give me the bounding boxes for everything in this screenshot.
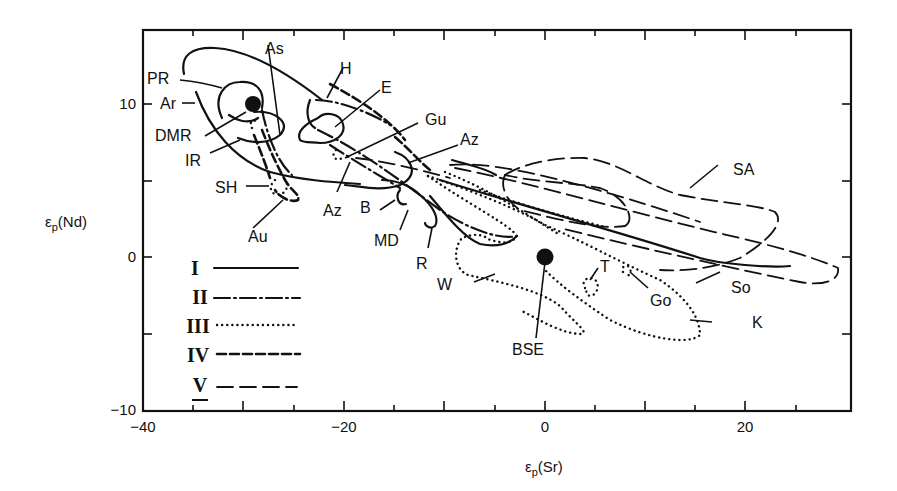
label-W: W <box>437 276 453 293</box>
x-tick-label: −20 <box>331 418 356 435</box>
label-Au: Au <box>248 228 268 245</box>
label-DMR: DMR <box>155 127 191 144</box>
label-Gu: Gu <box>425 111 446 128</box>
x-tick-label: −40 <box>130 418 155 435</box>
y-tick-label: 0 <box>128 248 136 265</box>
label-BSE: BSE <box>512 341 544 358</box>
type-III-contours <box>251 121 700 340</box>
legend: I II III IV V <box>186 257 300 400</box>
y-tick-label: 10 <box>119 95 136 112</box>
label-Az-2: Az <box>323 202 342 219</box>
y-axis-title: εp(Nd) <box>45 213 87 233</box>
label-K: K <box>752 314 763 331</box>
label-Go: Go <box>650 292 671 309</box>
label-R: R <box>416 255 428 272</box>
label-So: So <box>731 279 751 296</box>
label-PR: PR <box>147 70 169 87</box>
pr-ar-point <box>245 96 261 112</box>
label-E: E <box>381 79 392 96</box>
label-Az-1: Az <box>460 131 479 148</box>
x-tick-label: 0 <box>541 418 549 435</box>
label-leaders <box>180 45 720 338</box>
label-As: As <box>265 40 284 57</box>
label-B: B <box>360 199 371 216</box>
x-tick-label: 20 <box>737 418 754 435</box>
label-MD: MD <box>374 232 399 249</box>
legend-key-V: V <box>193 374 208 396</box>
label-H: H <box>340 60 352 77</box>
legend-key-IV: IV <box>187 344 210 366</box>
label-T: T <box>600 258 610 275</box>
label-SH: SH <box>215 179 237 196</box>
label-IR: IR <box>185 152 201 169</box>
label-Ar: Ar <box>160 95 177 112</box>
legend-key-III: III <box>186 315 210 337</box>
legend-key-I: I <box>191 257 199 279</box>
y-tick-label: −10 <box>111 401 136 418</box>
isotope-plot: −40 −20 0 20 10 0 −10 εp(Sr) εp(Nd) <box>0 0 897 491</box>
legend-key-II: II <box>192 286 208 308</box>
label-SA: SA <box>733 161 755 178</box>
x-axis-title: εp(Sr) <box>525 458 563 478</box>
